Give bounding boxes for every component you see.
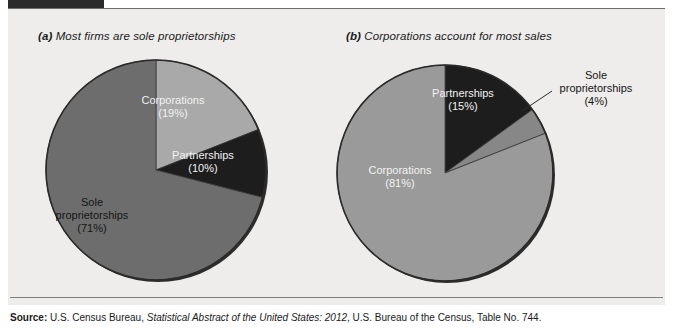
source-text-before: U.S. Census Bureau,: [47, 312, 147, 323]
chart-b-title: (b) Corporations account for most sales: [346, 30, 552, 42]
chart-b-panel-letter: (b): [346, 30, 361, 42]
header-chapter-tab: [8, 0, 104, 8]
chart-a-title: (a) Most firms are sole proprietorships: [38, 30, 236, 42]
header-ghost-text: [200, 0, 400, 7]
source-italic-title: Statistical Abstract of the United State…: [147, 312, 347, 323]
source-label: Source:: [10, 312, 47, 323]
source-divider-rule: [10, 297, 663, 298]
pie-chart-a: [41, 55, 277, 291]
chart-b-title-text: Corporations account for most sales: [364, 30, 552, 42]
figure-panel: (a) Most firms are sole proprietorships …: [8, 9, 665, 305]
pie-chart-a-svg: [41, 55, 277, 291]
chart-a-title-text: Most firms are sole proprietorships: [56, 30, 236, 42]
source-text-after: , U.S. Bureau of the Census, Table No. 7…: [347, 312, 541, 323]
chart-a-panel-letter: (a): [38, 30, 52, 42]
bottom-gutter: [0, 330, 673, 335]
header-strip: [0, 0, 673, 9]
pie-b-leader-line: [508, 89, 568, 121]
figure-container: (a) Most firms are sole proprietorships …: [0, 0, 673, 335]
source-line: Source: U.S. Census Bureau, Statistical …: [10, 312, 665, 323]
